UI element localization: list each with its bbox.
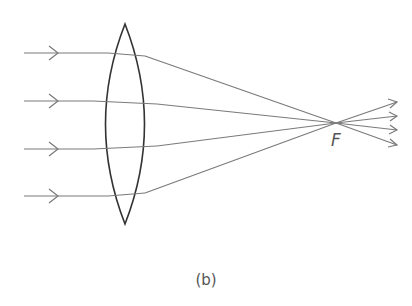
figure-caption: (b): [0, 271, 412, 289]
refracted-in-lens: [93, 53, 157, 196]
focal-point-label: F: [331, 130, 341, 150]
incoming-rays: [24, 46, 108, 203]
lens-diagram: F (b): [0, 0, 412, 306]
ray-diagram-svg: [0, 0, 412, 306]
outgoing-arrowheads: [388, 99, 397, 147]
converging-rays: [145, 56, 397, 193]
